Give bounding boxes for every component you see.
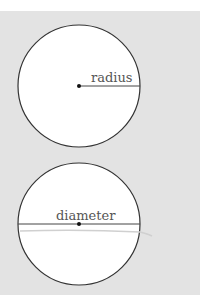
radius-label: radius xyxy=(91,70,133,85)
radius-figure: radius xyxy=(18,25,140,147)
diameter-label: diameter xyxy=(56,208,116,223)
center-point xyxy=(77,84,81,88)
circle-diagram: radius diameter xyxy=(0,0,200,299)
diameter-figure: diameter xyxy=(18,163,152,285)
